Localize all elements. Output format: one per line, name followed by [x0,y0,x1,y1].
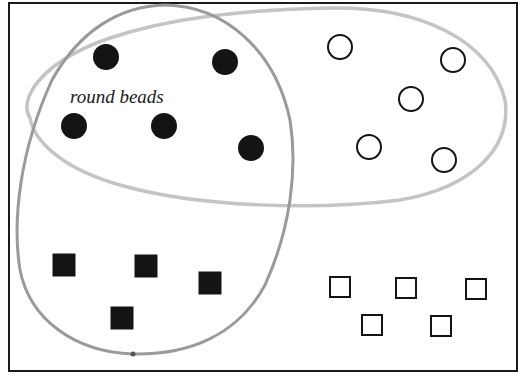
black-round-bead [93,44,119,70]
white-round-bead [328,35,352,59]
white-round-bead [357,135,381,159]
black-round-bead [61,113,87,139]
black-square-bead [199,272,222,295]
white-round-bead [441,48,465,72]
black-round-bead [212,49,238,75]
white-square-bead [396,278,416,298]
black-round-bead [238,135,264,161]
black-square-bead [111,307,134,330]
pencil-mark [131,352,136,357]
white-square-bead [466,279,486,299]
black-square-bead [135,255,158,278]
round-beads-label: round beads [70,86,164,107]
black-round-bead [151,113,177,139]
white-round-bead [399,87,423,111]
white-square-bead [431,316,451,336]
white-square-bead [362,315,382,335]
round-beads-loop [17,5,293,354]
white-round-bead [432,148,456,172]
black-square-bead [53,254,76,277]
bead-sorting-diagram: round beads [0,0,521,377]
white-square-bead [330,277,350,297]
